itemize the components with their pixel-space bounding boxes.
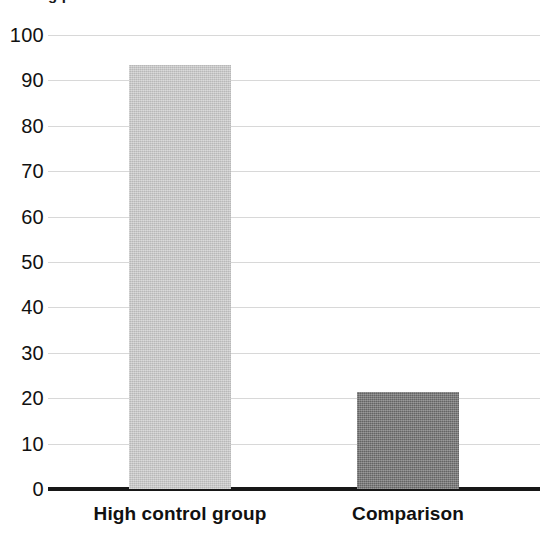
bars-layer (0, 0, 548, 489)
bar (129, 65, 231, 489)
x-axis-tick-label: Comparison (248, 503, 548, 525)
bar (357, 392, 459, 489)
bar-chart: g p 1009080706050403020100 High control … (0, 0, 548, 539)
